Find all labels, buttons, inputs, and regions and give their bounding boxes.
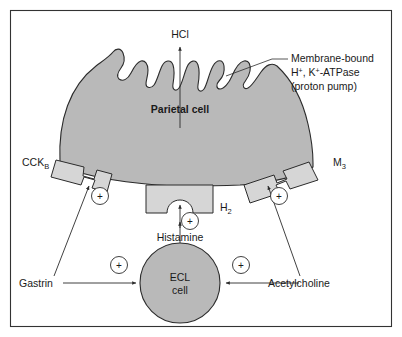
gastrin-to-cckb-arrow [54,186,89,276]
plus-badge-gastrin-ecl: + [111,257,128,274]
proton-pump-h: H [291,66,299,78]
proton-pump-label-line1: Membrane-bound [291,52,374,64]
m3-label-subscript: 3 [342,162,346,171]
proton-pump-label-line3: (proton pump) [291,80,357,92]
plus-badge-m3: + [271,188,288,205]
proton-pump-label-line2: H+, K+-ATPase [291,66,360,78]
plus-badge-h2: + [182,213,199,230]
cck-b-label-subscript: B [44,162,49,171]
histamine-label: Histamine [157,231,204,243]
figure-container: + + + + + HCl Parietal cell Membrane-bou… [0,0,402,337]
plus-badge-m3-label: + [276,191,282,202]
plus-badge-h2-label: + [187,216,193,227]
acetylcholine-label: Acetylcholine [268,277,330,289]
plus-badge-ach-ecl-label: + [238,260,244,271]
gastrin-label: Gastrin [19,277,53,289]
cck-b-label-base: CCK [22,156,44,168]
plus-badge-cckb-label: + [97,191,103,202]
ecl-cell-label-line2: cell [172,284,188,296]
m3-label-base: M [333,156,342,168]
parietal-cell-diagram: + + + + + HCl Parietal cell Membrane-bou… [0,0,402,337]
plus-badge-cckb: + [92,188,109,205]
m3-label: M3 [333,156,346,171]
ecl-cell-label-line1: ECL [170,271,191,283]
hcl-label: HCl [171,28,189,40]
plus-badge-ach-ecl: + [233,257,250,274]
ecl-cell-body [140,243,220,323]
parietal-cell-body [60,49,313,186]
plus-badge-gastrin-ecl-label: + [116,260,122,271]
parietal-cell-label: Parietal cell [151,103,209,115]
h2-receptor [146,185,213,213]
h2-label: H2 [220,201,232,216]
cck-b-label: CCKB [22,156,49,171]
proton-pump-atpase: -ATPase [320,66,360,78]
h2-label-subscript: 2 [228,207,232,216]
h2-label-base: H [220,201,228,213]
proton-pump-k: , K [303,66,316,78]
